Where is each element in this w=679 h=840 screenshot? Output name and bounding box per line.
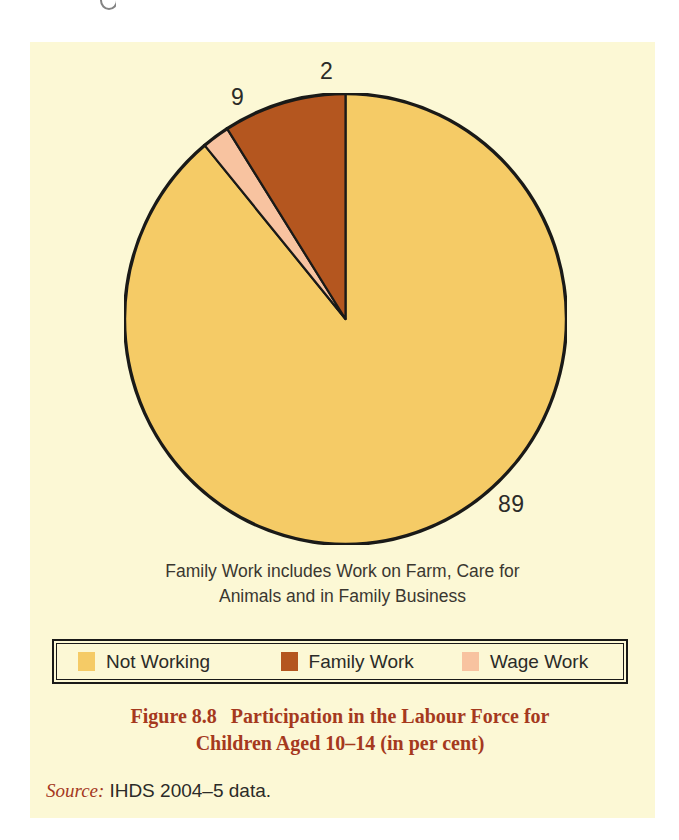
legend-swatch-not-working — [78, 652, 95, 671]
chart-note-line-2: Animals and in Family Business — [60, 584, 625, 609]
source-text: IHDS 2004–5 data. — [109, 780, 271, 801]
pie-chart — [124, 93, 567, 545]
legend-item-family-work[interactable]: Family Work — [281, 651, 462, 673]
legend-item-wage-work[interactable]: Wage Work — [462, 651, 626, 673]
figure-caption-title-line-1: Participation in the Labour Force for — [231, 705, 550, 727]
scan-artifact-glyph — [99, 0, 116, 11]
legend-label-family-work: Family Work — [309, 651, 414, 673]
figure-panel: 2 9 89 Family Work includes Work on Farm… — [30, 42, 655, 818]
source-line: Source:IHDS 2004–5 data. — [46, 780, 271, 802]
pie-label-family-work: 9 — [231, 84, 244, 111]
pie-label-not-working: 89 — [498, 491, 525, 518]
pie-label-wage-work: 2 — [320, 58, 333, 85]
figure-number: Figure 8.8 — [131, 705, 217, 727]
legend-item-not-working[interactable]: Not Working — [78, 651, 281, 673]
figure-caption-line-2: Children Aged 10–14 (in per cent) — [60, 730, 620, 757]
legend-row: Not Working Family Work Wage Work — [54, 641, 626, 682]
source-label: Source: — [46, 780, 104, 801]
legend-label-wage-work: Wage Work — [490, 651, 588, 673]
legend-label-not-working: Not Working — [106, 651, 210, 673]
chart-note-line-1: Family Work includes Work on Farm, Care … — [60, 559, 625, 584]
figure-page: 2 9 89 Family Work includes Work on Farm… — [0, 0, 679, 840]
pie-chart-svg — [124, 93, 567, 545]
legend-swatch-family-work — [281, 652, 298, 671]
figure-caption: Figure 8.8Participation in the Labour Fo… — [60, 703, 620, 757]
figure-caption-line-1: Figure 8.8Participation in the Labour Fo… — [60, 703, 620, 730]
chart-legend: Not Working Family Work Wage Work — [52, 639, 628, 684]
chart-note: Family Work includes Work on Farm, Care … — [60, 559, 625, 609]
legend-swatch-wage-work — [462, 652, 479, 671]
